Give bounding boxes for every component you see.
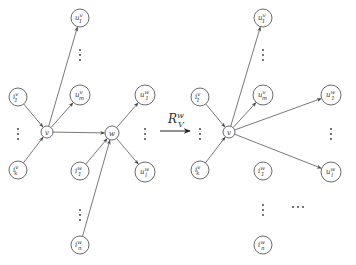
before-edge-ikv-to-v (24, 137, 44, 163)
after-ellipsis-0 (262, 49, 264, 61)
before-edge-w-to-u1w (117, 103, 139, 128)
before-node-w: w (105, 126, 119, 140)
before-edge-v-to-w (53, 132, 105, 133)
before-ellipsis-2 (144, 128, 146, 140)
after-ellipsis-1 (199, 128, 201, 140)
graph-before: uv1uvmiv1ivkvwuw1uwliw1iwn (9, 9, 155, 254)
after-ellipsis-3 (262, 204, 264, 216)
node-label: v (227, 129, 231, 137)
before-ellipsis-1 (17, 128, 19, 140)
after-node-inw: iwn (254, 236, 272, 254)
after-edge-ikv-to-v (206, 137, 226, 163)
after-node-ulw: uwl (321, 162, 341, 182)
before-node-ulw: uwl (135, 162, 155, 182)
after-edge-v-to-ulw (235, 134, 322, 168)
after-node-umv: uvm (253, 85, 273, 105)
before-edge-i1v-to-v (24, 104, 43, 127)
before-node-i1v: iv1 (9, 88, 27, 106)
before-ellipsis-3 (79, 209, 81, 221)
before-edge-w-to-ulw (117, 138, 139, 164)
node-label: w (109, 130, 115, 138)
before-node-u1v: uv1 (71, 9, 89, 27)
before-edge-v-to-u1v (49, 27, 78, 126)
after-node-i1w: iw1 (254, 162, 272, 180)
after-ellipsis-4 (292, 206, 304, 208)
before-ellipsis-0 (79, 49, 81, 61)
before-node-i1w: iw1 (71, 162, 89, 180)
after-node-ikv: ivk (191, 161, 209, 179)
before-edge-inw-to-w (83, 140, 110, 236)
rewrite-operator-arrow: RwV (160, 111, 190, 131)
operator-label: RwV (167, 111, 185, 129)
before-node-inw: iwn (71, 236, 89, 254)
node-label: v (45, 129, 49, 137)
graph-after: uv1uvmiv1ivkvuw1uwliw1iwn (191, 9, 341, 254)
after-edge-v-to-u1v (231, 27, 261, 126)
before-node-v: v (41, 126, 53, 138)
before-node-umv: uvm (70, 85, 90, 105)
after-node-i1v: iv1 (191, 88, 209, 106)
after-edge-i1v-to-v (206, 104, 225, 127)
graph-rewrite-diagram: uv1uvmiv1ivkvwuw1uwliw1iwn RwV uv1uvmiv1… (0, 0, 356, 265)
before-node-ikv: ivk (9, 161, 27, 179)
after-node-u1v: uv1 (254, 9, 272, 27)
after-edge-v-to-u1w (235, 99, 322, 130)
before-node-u1w: uw1 (135, 85, 155, 105)
after-node-u1w: uw1 (321, 85, 341, 105)
after-ellipsis-2 (330, 128, 332, 140)
after-node-v: v (223, 126, 235, 138)
